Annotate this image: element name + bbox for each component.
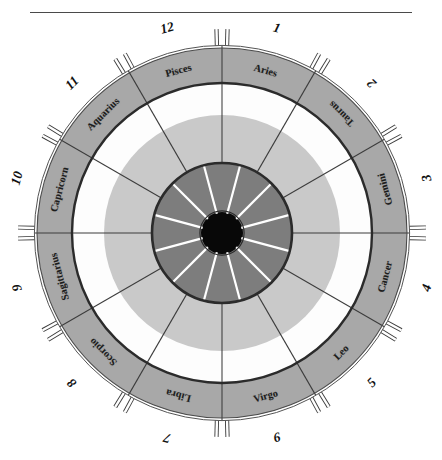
tick-pin-hollow (382, 126, 396, 135)
tick-pin-hollow (382, 331, 396, 340)
tick-pin-hollow (387, 136, 402, 144)
tick-pin-hollow (387, 322, 402, 330)
tick-pin-hollow (320, 393, 329, 407)
tick-pin-hollow (125, 54, 133, 69)
tick-pin-hollow (43, 322, 58, 330)
tick-pin-hollow (320, 59, 329, 73)
tick-pin-hollow (43, 136, 58, 144)
tick-pin-hollow (311, 54, 319, 69)
zodiac-wheel (0, 0, 442, 460)
tick-pin-hollow (311, 398, 319, 413)
tick-pin-hollow (48, 331, 62, 340)
tick-pin-hollow (125, 398, 133, 413)
tick-pin-hollow (115, 59, 124, 73)
tick-pin-hollow (48, 126, 62, 135)
tick-pin-hollow (115, 393, 124, 407)
